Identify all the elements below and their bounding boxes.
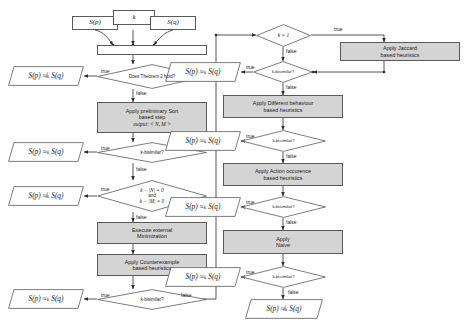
merge-bar bbox=[97, 45, 207, 55]
terminal-not-bisimilar-2: S(p) ≉ₖ S(q) bbox=[8, 186, 84, 206]
process-execute-external-minimization[interactable]: Execute external Minimization bbox=[97, 222, 207, 244]
process-apply-preliminary-sort[interactable]: Apply preliminary Sort based step output… bbox=[97, 102, 207, 133]
process-line-2: based heuristics bbox=[264, 107, 303, 113]
terminal-bisimilar-6: S(p) ≈ₖ S(q) bbox=[165, 267, 241, 287]
decision-k-equals-1[interactable]: k = 1 bbox=[256, 24, 311, 47]
terminal-label: S(p) ≈ₖ S(q) bbox=[185, 68, 220, 76]
edge-label-false: false bbox=[136, 166, 147, 172]
decision-line-3: k − |M| = 0 bbox=[140, 199, 164, 205]
terminal-bisimilar-1: S(p) ≈ₖ S(q) bbox=[8, 142, 84, 162]
edge-label-false: false bbox=[286, 219, 297, 225]
decision-label: k-bisimilar? bbox=[241, 275, 326, 280]
input-sp-label: S(p) bbox=[89, 19, 101, 27]
decision-label: k = 1 bbox=[256, 32, 311, 38]
terminal-label: S(p) ≈ₖ S(q) bbox=[185, 203, 220, 211]
input-sq[interactable]: S(q) bbox=[150, 16, 196, 30]
terminal-label: S(p) ≉ₖ S(q) bbox=[28, 72, 63, 80]
process-line-2: Minimization bbox=[137, 233, 167, 239]
edge-label-false: false bbox=[286, 153, 297, 159]
process-line-2: based heuristics bbox=[381, 52, 420, 58]
edge-label-false: false bbox=[136, 90, 147, 96]
decision-label: k-bisimilar? bbox=[241, 205, 326, 210]
terminal-label: S(p) ≉ₖ S(q) bbox=[28, 192, 63, 200]
process-apply-different-behaviour-heuristics[interactable]: Apply Different behaviour based heuristi… bbox=[223, 95, 343, 118]
input-k-label: k bbox=[132, 14, 135, 22]
decision-label: k-bisimilar? bbox=[253, 70, 313, 75]
terminal-label: S(p) ≈ₖ S(q) bbox=[28, 148, 63, 156]
decision-label: k-bisimilar? bbox=[97, 150, 207, 155]
input-sp[interactable]: S(p) bbox=[72, 16, 118, 30]
terminal-not-bisimilar-final: S(p) ≉ₖ S(q) bbox=[245, 299, 323, 319]
edge-label-false: false bbox=[286, 84, 297, 90]
input-k[interactable]: k bbox=[113, 10, 155, 25]
terminal-label: S(p) ≈ₖ S(q) bbox=[28, 295, 63, 303]
edge-label-true: true bbox=[334, 26, 343, 32]
terminal-bisimilar-2: S(p) ≈ₖ S(q) bbox=[8, 289, 84, 309]
process-apply-jaccard-heuristics[interactable]: Apply Jaccard based heuristics bbox=[340, 42, 460, 61]
flowchart-canvas: S(p) k S(q) Does Theorem 2 hold? true fa… bbox=[0, 0, 469, 330]
terminal-label: S(p) ≈ₖ S(q) bbox=[185, 273, 220, 281]
process-line-2: based heuristics bbox=[264, 175, 303, 181]
edge-label-false: false bbox=[286, 48, 297, 54]
terminal-not-bisimilar-1: S(p) ≉ₖ S(q) bbox=[8, 66, 84, 86]
decision-k-bisimilar-3[interactable]: k-bisimilar? bbox=[253, 61, 313, 83]
process-apply-action-occurence-heuristics[interactable]: Apply Action occurence based heuristics bbox=[223, 163, 343, 186]
input-sq-label: S(q) bbox=[167, 19, 179, 27]
terminal-label: S(p) ≈ₖ S(q) bbox=[185, 137, 220, 145]
decision-label: k-bisimilar? bbox=[97, 297, 207, 302]
process-line-2: Naive bbox=[276, 242, 290, 248]
terminal-label: S(p) ≉ₖ S(q) bbox=[266, 305, 301, 313]
decision-label: k-bisimilar? bbox=[241, 139, 326, 144]
terminal-bisimilar-4: S(p) ≈ₖ S(q) bbox=[165, 131, 241, 151]
edge-label-false: false bbox=[136, 214, 147, 220]
process-apply-naive[interactable]: Apply Naive bbox=[223, 230, 343, 254]
edge-label-false: false bbox=[288, 289, 299, 295]
process-line-3: output: < N, M > bbox=[133, 121, 171, 127]
